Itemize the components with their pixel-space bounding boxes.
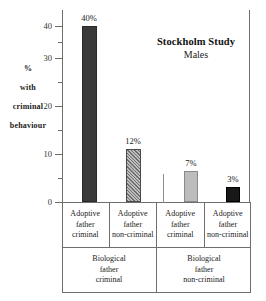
y-axis-caption-line-3: criminal (0, 102, 56, 111)
category-cell-3-line-1: Adoptive (165, 209, 195, 220)
group-label-row: Biological father criminal Biological fa… (62, 248, 251, 293)
group-cell-1-line-3: criminal (96, 275, 123, 286)
bar-value-label-3: 7% (171, 159, 211, 168)
group-cell-1-line-2: father (100, 265, 119, 276)
group-cell-2: Biological father non-criminal (157, 248, 251, 292)
group-cell-1: Biological father criminal (62, 248, 157, 292)
category-cell-4-line-2: father (218, 220, 237, 231)
category-cell-4-line-3: non-criminal (207, 230, 248, 241)
category-cell-4-line-1: Adoptive (213, 209, 243, 220)
bar-adoptive-noncriminal-bio-noncriminal (226, 187, 240, 202)
category-cell-3-line-2: father (171, 220, 190, 231)
y-axis-caption-line-4: behaviour (0, 121, 56, 130)
y-axis-caption-line-2: with (0, 83, 56, 92)
category-cell-4: Adoptive father non-criminal (205, 203, 252, 247)
y-axis-caption-line-1: % (0, 64, 56, 73)
group-cell-1-line-1: Biological (92, 254, 125, 265)
category-cell-2-line-3: non-criminal (112, 230, 153, 241)
category-cell-2-line-1: Adoptive (118, 209, 148, 220)
y-tick-minor-15 (58, 130, 63, 131)
category-cell-1-line-2: father (76, 220, 95, 231)
stockholm-study-bar-chart: 0 10 20 30 40 % with criminal behaviour … (0, 0, 266, 301)
y-axis-caption: % with criminal behaviour (0, 64, 56, 130)
category-cell-2-line-2: father (123, 220, 142, 231)
bar-value-label-1: 40% (69, 14, 109, 23)
chart-title: Stockholm Study (140, 36, 252, 47)
y-tick-30 (55, 58, 63, 59)
y-tick-10 (55, 154, 63, 155)
y-axis-label-40: 40 (26, 22, 52, 31)
category-cell-3-line-3: criminal (167, 230, 194, 241)
group-divider-line (163, 174, 164, 203)
y-axis-label-30: 30 (26, 54, 52, 63)
y-tick-20 (55, 106, 63, 107)
group-cell-2-line-1: Biological (187, 254, 220, 265)
category-label-row: Adoptive father criminal Adoptive father… (62, 203, 251, 248)
category-cell-2: Adoptive father non-criminal (110, 203, 158, 247)
bar-adoptive-criminal-bio-criminal (82, 26, 97, 202)
table-left-border (62, 203, 63, 293)
category-cell-1-line-1: Adoptive (70, 209, 100, 220)
y-tick-minor-5 (58, 178, 63, 179)
bar-value-label-4: 3% (213, 175, 253, 184)
y-axis-label-10: 10 (26, 150, 52, 159)
y-axis-label-0: 0 (26, 198, 52, 207)
bar-value-label-2: 12% (113, 137, 153, 146)
group-cell-2-line-3: non-criminal (183, 275, 224, 286)
category-cell-1-line-3: criminal (72, 230, 99, 241)
table-right-border (250, 203, 251, 293)
group-cell-2-line-2: father (195, 265, 214, 276)
y-tick-minor-25 (58, 82, 63, 83)
chart-subtitle: Males (140, 49, 252, 60)
category-cell-3: Adoptive father criminal (157, 203, 205, 247)
bar-adoptive-noncriminal-bio-criminal (126, 149, 141, 202)
chart-title-block: Stockholm Study Males (140, 36, 252, 60)
category-cell-1: Adoptive father criminal (62, 203, 110, 247)
y-tick-minor-35 (58, 42, 63, 43)
bar-adoptive-criminal-bio-noncriminal (184, 171, 198, 202)
y-tick-40 (55, 26, 63, 27)
